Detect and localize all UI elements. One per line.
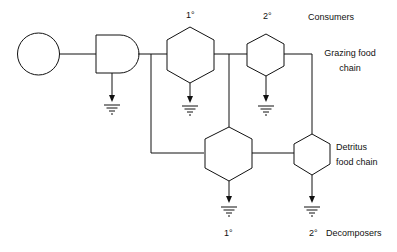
primary-decomposer-label: 1° [224,228,233,239]
detritus-label-line1: Detritus [336,142,367,153]
energy-source-circle [18,33,60,75]
primary-decomposer-hexagon [205,127,252,181]
secondary-consumer-label: 2° [263,11,272,22]
producer-shape [96,35,139,73]
secondary-decomposer-label: 2° [309,228,318,239]
grazing-label-line2: chain [318,63,382,74]
secondary-consumer-hexagon [247,34,284,76]
decomposers-label: Decomposers [326,228,382,239]
detritus-label-line2: food chain [336,157,378,168]
energy-flow-diagram: 1° 2° Consumers Grazing food chain Detri… [0,0,397,252]
primary-consumer-hexagon [167,27,214,83]
consumers-label: Consumers [308,12,354,23]
secondary-decomposer-hexagon [294,134,330,175]
primary-consumer-label: 1° [186,10,195,21]
diagram-canvas [0,0,397,252]
grazing-label-line1: Grazing food [318,48,382,59]
